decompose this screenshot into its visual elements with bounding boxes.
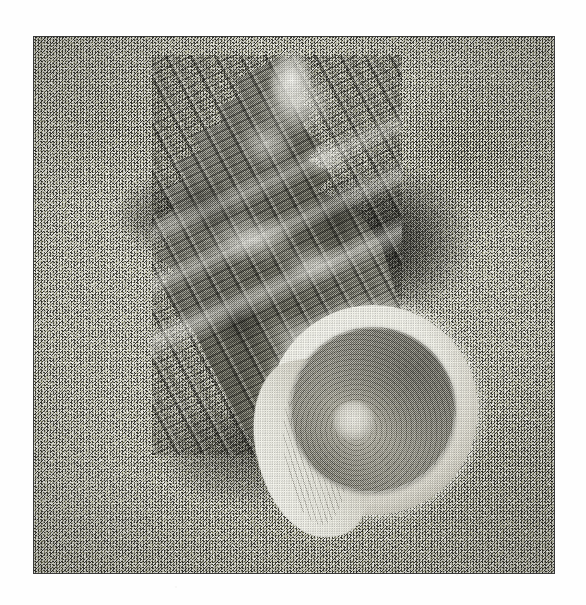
sea-shell <box>34 37 554 573</box>
page-root <box>0 0 586 605</box>
shell-apex-highlight <box>263 49 319 121</box>
photograph-image <box>34 37 554 573</box>
operculum-shading <box>290 327 456 493</box>
photograph-frame <box>33 36 555 574</box>
photo-caption <box>33 580 555 598</box>
operculum-nucleus <box>333 401 375 441</box>
